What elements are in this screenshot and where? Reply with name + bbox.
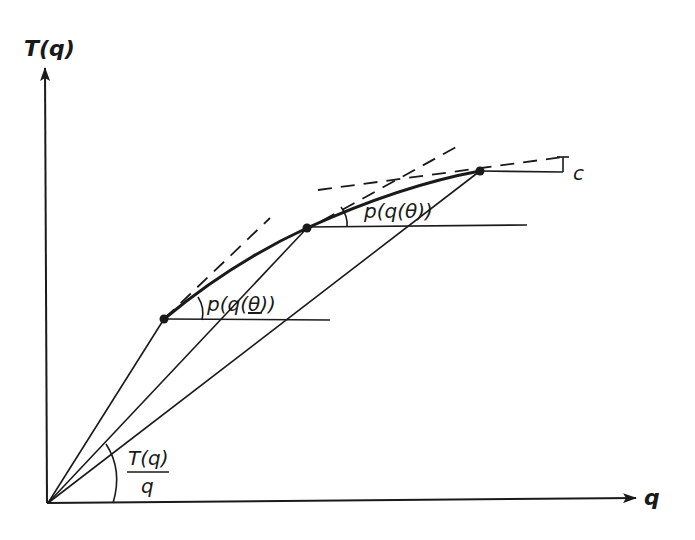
point-p3 — [476, 167, 485, 176]
horizontal-line-p3 — [480, 171, 563, 172]
angle-arc-p1 — [198, 297, 203, 320]
label-c: c — [573, 161, 584, 185]
angle-arcs — [106, 157, 569, 503]
y-axis — [45, 68, 47, 503]
point-p2 — [303, 224, 312, 233]
average-fraction-label: T(q) q — [127, 446, 169, 498]
tangent-at-p3 — [318, 157, 563, 190]
horizontal-line-p1 — [164, 319, 330, 320]
fraction-denominator: q — [141, 474, 154, 498]
y-axis-label: T(q) — [24, 36, 75, 61]
x-axis-label: q — [644, 485, 660, 510]
ray-to-p2 — [48, 228, 307, 503]
angle-arc-origin — [106, 444, 117, 503]
horizontal-line-p2 — [307, 225, 527, 227]
label-p-q-theta-low: p(q(θ)) — [206, 292, 276, 316]
diagram-canvas: T(q) q p(q(θ)) p(q(θ)) c — [0, 0, 695, 540]
x-axis — [47, 498, 636, 503]
label-p-q-theta-high: p(q(θ)) — [363, 199, 433, 223]
fraction-numerator: T(q) — [128, 446, 169, 470]
point-p1 — [160, 315, 169, 324]
